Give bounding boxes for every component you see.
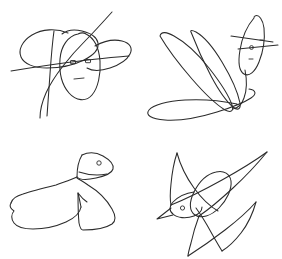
- br-upper-left-wing: [177, 153, 218, 211]
- br-upper-left-wing-lower-edge: [170, 153, 177, 205]
- br-upper-right-wing: [171, 152, 267, 205]
- bl-head-left-edge: [77, 155, 82, 177]
- br-tail-right-edge: [188, 202, 256, 256]
- line-drawing-bird-head: [141, 0, 282, 129]
- face-horizontal-cross-line: [11, 56, 129, 71]
- face-right-loop: [87, 40, 131, 70]
- bl-left-wing-lobe: [10, 203, 81, 229]
- br-head-outline: [170, 192, 202, 218]
- line-drawing-flying-bird: [141, 130, 282, 259]
- tr-narrow-loop-center: [191, 31, 240, 110]
- bl-neck-and-left-wing-top: [11, 177, 77, 203]
- line-drawing-face: [0, 0, 141, 129]
- drawing-panel-top-right: Tangled continuous line with narrow poin…: [141, 0, 282, 129]
- face-neck-stroke: [47, 31, 54, 116]
- bl-eye: [97, 161, 101, 165]
- drawing-panel-bottom-right: Angular continuous line of a bird in fli…: [141, 130, 282, 259]
- bl-center-notch: [78, 193, 87, 207]
- drawing-panel-bottom-left: Clean continuous outline of a perched bi…: [0, 130, 141, 259]
- drawing-panel-top-left: Single continuous scribbled line forming…: [0, 0, 141, 129]
- line-drawing-perched-bird: [0, 130, 141, 259]
- tr-whisker-lower-line: [238, 45, 278, 49]
- face-mouth-dash: [74, 78, 84, 79]
- tr-whisker-upper-line: [231, 36, 273, 42]
- br-eye: [180, 206, 184, 210]
- bl-right-body-lobe: [77, 178, 115, 230]
- bl-beak-line: [79, 172, 107, 175]
- artwork-canvas: Continuous line drawings Single continuo…: [0, 0, 282, 259]
- tr-bottom-long-loop: [148, 89, 255, 120]
- br-upper-right-wing-lower-edge: [199, 152, 267, 216]
- br-tail-outer-edge: [222, 202, 256, 251]
